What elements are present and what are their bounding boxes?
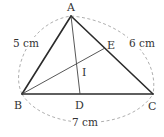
label-b: B — [14, 99, 22, 112]
side-ca — [71, 16, 153, 94]
label-d: D — [75, 99, 84, 112]
length-bc: 7 cm — [72, 116, 98, 128]
triangle-diagram: A B C D E I 5 cm 6 cm 7 cm — [0, 0, 164, 137]
bisector-ad — [71, 16, 80, 94]
label-a: A — [66, 1, 76, 14]
label-e: E — [107, 39, 115, 52]
length-ac: 6 cm — [129, 37, 155, 49]
bisector-be — [22, 48, 105, 94]
length-ab: 5 cm — [13, 37, 39, 49]
label-c: C — [148, 100, 156, 113]
label-i: I — [82, 66, 86, 79]
side-ab — [22, 16, 71, 94]
